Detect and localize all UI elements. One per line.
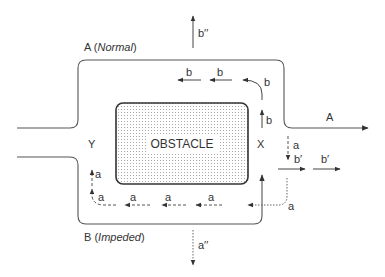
b-double-prime-label: b′′ <box>198 27 208 39</box>
b-arrow-curve <box>243 80 262 100</box>
a-double-prime-label: a′′ <box>198 239 208 251</box>
a-label-corner: a <box>98 191 105 203</box>
obstacle-label: OBSTACLE <box>150 137 213 151</box>
b-label-3: b <box>264 76 270 88</box>
b-label-2: b <box>217 66 223 78</box>
a-label-b3: a <box>130 191 137 203</box>
a-label-b1: a <box>208 191 215 203</box>
b-label-4: b <box>266 114 272 126</box>
route-a-label: A (Normal) <box>84 41 137 53</box>
node-y-label: Y <box>88 138 96 150</box>
b-prime-label-1: b′ <box>294 153 302 165</box>
exit-a-label: A <box>326 111 334 123</box>
a-label-up: a <box>95 168 102 180</box>
obstacle-flow-diagram: OBSTACLE A (Normal) B (Impeded) A Y X b′… <box>0 0 385 277</box>
obstacle: OBSTACLE <box>116 103 248 184</box>
b-label-1: b <box>186 66 192 78</box>
route-b-label: B (Impeded) <box>84 231 145 243</box>
a-label-turn: a <box>288 200 295 212</box>
a-label-b2: a <box>165 191 172 203</box>
a-label-x: a <box>293 139 300 151</box>
a-dashed-turn <box>248 178 287 205</box>
b-prime-label-2: b′ <box>321 153 329 165</box>
node-x-label: X <box>257 138 265 150</box>
